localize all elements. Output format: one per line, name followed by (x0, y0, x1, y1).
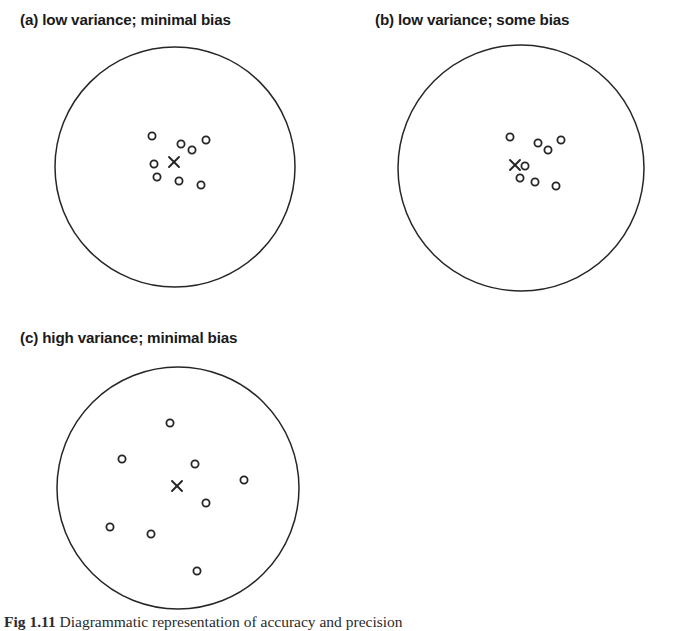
observation-marker (118, 455, 125, 462)
observation-marker (191, 460, 198, 467)
observation-marker (148, 132, 155, 139)
observation-marker (188, 146, 195, 153)
target-plot-b (394, 41, 648, 295)
figure-caption-number: Fig 1.11 (4, 613, 56, 630)
panel-title-b: (b) low variance; some bias (375, 12, 569, 27)
observation-marker (521, 162, 528, 169)
observation-marker (166, 419, 173, 426)
observation-marker (531, 178, 538, 185)
target-boundary-circle (55, 47, 295, 287)
target-plot-c (53, 363, 303, 613)
figure-root: (a) low variance; minimal bias(b) low va… (0, 0, 690, 631)
figure-caption-text: Fig 1.11 Diagrammatic representation of … (0, 612, 690, 631)
observation-marker (544, 146, 551, 153)
observation-marker (557, 136, 564, 143)
figure-caption-body: Diagrammatic representation of accuracy … (60, 613, 403, 630)
observation-marker (534, 139, 541, 146)
observation-marker (193, 567, 200, 574)
panel-title-a: (a) low variance; minimal bias (20, 12, 231, 27)
observation-marker (552, 182, 559, 189)
true-value-x-icon (169, 157, 179, 167)
target-plot-a (51, 43, 299, 291)
figure-caption: Fig 1.11 Diagrammatic representation of … (0, 612, 690, 631)
observation-marker (175, 177, 182, 184)
observation-marker (106, 523, 113, 530)
observation-marker (147, 530, 154, 537)
observation-marker (153, 173, 160, 180)
observation-marker (197, 181, 204, 188)
observation-marker (516, 174, 523, 181)
observation-marker (240, 476, 247, 483)
true-value-x-icon (172, 481, 182, 491)
observation-marker (202, 136, 209, 143)
true-value-x-icon (510, 160, 520, 170)
observation-marker (177, 140, 184, 147)
observation-marker (202, 499, 209, 506)
observation-marker (150, 160, 157, 167)
observation-marker (506, 133, 513, 140)
panel-title-c: (c) high variance; minimal bias (20, 330, 237, 345)
